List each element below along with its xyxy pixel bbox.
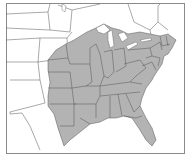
range-map (0, 0, 190, 160)
